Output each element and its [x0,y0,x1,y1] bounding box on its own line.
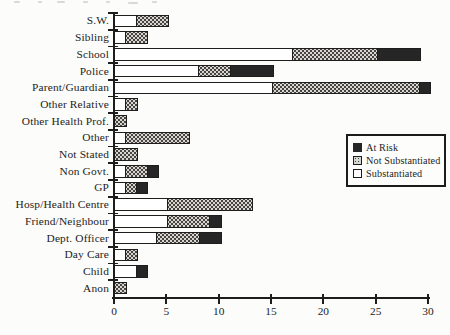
bar-segment-substantiated [115,250,125,261]
bar-segment-not-substantiated [156,233,198,244]
stacked-bar [114,31,148,44]
category-label: Hosp/Health Centre [0,196,109,213]
x-axis-tick-label: 5 [151,305,181,317]
stacked-bar [114,132,190,145]
scanned-chart-page: S.W.SiblingSchoolPoliceParent/GuardianOt… [0,0,450,335]
bar-segment-not-substantiated [167,199,252,210]
x-axis-tick [427,294,429,304]
scan-artifact-cropped-text [0,0,450,6]
legend-item-not-substantiated: Not Substantiated [353,154,440,166]
y-axis-tick [108,229,118,231]
legend: At Risk Not Substantiated Substantiated [346,134,446,187]
y-axis-tick [108,213,118,215]
bar-segment-substantiated [115,166,125,177]
category-label: Anon [0,280,109,297]
stacked-bar [114,48,421,61]
at-risk-swatch-icon [353,143,362,152]
stacked-bar [114,148,138,161]
bar-segment-not-substantiated [115,149,137,160]
category-label: Dept. Officer [0,230,109,247]
bar-segment-not-substantiated [115,116,126,127]
legend-label-substantiated: Substantiated [366,168,422,179]
stacked-bar [114,182,148,195]
bar-segment-not-substantiated [136,16,168,27]
category-label: Day Care [0,246,109,263]
bar-segment-substantiated [115,216,167,227]
stacked-bar [114,232,222,245]
x-axis-tick [375,294,377,304]
category-label: Other Health Prof. [0,113,109,130]
bar-segment-not-substantiated [125,250,136,261]
stacked-bar [114,115,127,128]
category-label: Child [0,263,109,280]
y-axis-tick [108,146,118,148]
not-substantiated-swatch-icon [353,156,362,165]
bar-segment-not-substantiated [292,49,376,60]
y-axis-tick [108,62,118,64]
category-label: Other [0,129,109,146]
x-axis-tick-label: 10 [204,305,234,317]
y-axis-tick [108,162,118,164]
x-axis-tick [322,294,324,304]
substantiated-swatch-icon [353,169,362,178]
bar-segment-substantiated [115,183,125,194]
y-axis-tick [108,246,118,248]
x-axis-tick [218,294,220,304]
bar-segment-substantiated [115,32,125,43]
bar-segment-at-risk [147,166,158,177]
x-axis-tick-label: 25 [361,305,391,317]
bar-segment-not-substantiated [272,83,419,94]
y-axis-tick [108,96,118,98]
y-axis-tick [108,263,118,265]
category-label: Not Stated [0,146,109,163]
stacked-bar [114,265,148,278]
bar-segment-not-substantiated [198,66,230,77]
y-axis-tick [108,112,118,114]
stacked-bar [114,98,138,111]
bar-segment-not-substantiated [125,166,146,177]
x-axis-tick [113,294,115,304]
stacked-bar [114,15,169,28]
bar-segment-substantiated [115,16,136,27]
stacked-bar [114,282,127,295]
category-label: Non Govt. [0,163,109,180]
bar-segment-substantiated [115,266,136,277]
y-axis-tick [108,196,118,198]
category-label: Friend/Neighbour [0,213,109,230]
bar-segment-at-risk [136,183,147,194]
bar-segment-at-risk [377,49,420,60]
bar-segment-at-risk [419,83,430,94]
x-axis-tick-label: 0 [99,305,129,317]
category-label: Sibling [0,29,109,46]
stacked-bar [114,198,253,211]
bar-segment-substantiated [115,99,125,110]
bar-segment-substantiated [115,66,198,77]
y-axis-tick [108,129,118,131]
x-axis-tick-label: 20 [308,305,338,317]
legend-label-not-substantiated: Not Substantiated [366,155,440,166]
bar-segment-substantiated [115,133,125,144]
stacked-bar [114,65,274,78]
category-label: Police [0,63,109,80]
bar-segment-at-risk [209,216,220,227]
bar-segment-substantiated [115,83,272,94]
bar-segment-substantiated [115,233,156,244]
category-label: GP [0,179,109,196]
x-axis-tick [165,294,167,304]
y-axis-tick [108,29,118,31]
category-label: S.W. [0,12,109,29]
category-label: Parent/Guardian [0,79,109,96]
category-label: School [0,46,109,63]
legend-item-at-risk: At Risk [353,141,440,153]
bar-segment-substantiated [115,199,167,210]
category-label: Other Relative [0,96,109,113]
legend-item-substantiated: Substantiated [353,167,440,179]
y-axis-tick [108,79,118,81]
bar-segment-not-substantiated [167,216,209,227]
bar-segment-not-substantiated [125,183,136,194]
x-axis-tick-label: 30 [413,305,443,317]
x-axis-tick-label: 15 [256,305,286,317]
stacked-bar [114,215,222,228]
bar-segment-at-risk [199,233,221,244]
y-axis-tick [108,179,118,181]
